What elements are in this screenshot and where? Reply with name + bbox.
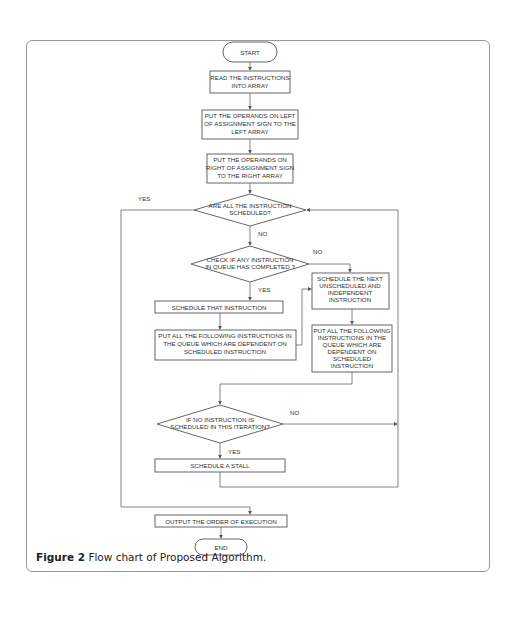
all-scheduled-decision: ARE ALL THE INSTRUCTION SCHEDULED? xyxy=(194,194,306,226)
right-operands-line-3: TO THE RIGHT ARRAY xyxy=(217,172,283,179)
schedule-next-line-2: UNSCHEDULED AND xyxy=(319,282,381,289)
figure-caption: Figure 2 Flow chart of Proposed Algorith… xyxy=(36,551,266,563)
no-label-any-completed: NO xyxy=(313,248,322,255)
output-order-box: OUTPUT THE ORDER OF EXECUTION xyxy=(155,515,287,527)
put-dependent-right-line-2: INSTRUCTIONS IN THE xyxy=(318,334,386,341)
read-instructions-box: READ THE INSTRUCTIONS INTO ARRAY xyxy=(210,71,290,93)
put-dependent-right-box: PUT ALL THE FOLLOWING INSTRUCTIONS IN TH… xyxy=(312,325,392,372)
no-label-no-instruction: NO xyxy=(290,409,299,416)
schedule-stall-box: SCHEDULE A STALL xyxy=(155,459,285,472)
output-order-label: OUTPUT THE ORDER OF EXECUTION xyxy=(165,518,277,525)
schedule-next-line-3: INDEPENDENT xyxy=(328,289,373,296)
put-dependent-right-line-3: QUEUE WHICH ARE xyxy=(323,341,382,348)
put-dependent-left-box: PUT ALL THE FOLLOWING INSTRUCTIONS IN TH… xyxy=(155,330,296,360)
left-operands-line-2: OF ASSIGNMENT SIGN TO THE xyxy=(204,120,296,127)
put-dependent-left-line-1: PUT ALL THE FOLLOWING INSTRUCTIONS IN xyxy=(158,332,291,339)
left-operands-line-1: PUT THE OPERANDS ON LEFT xyxy=(205,112,296,119)
flowchart: START READ THE INSTRUCTIONS INTO ARRAY P… xyxy=(0,0,517,627)
put-dependent-right-line-6: INSTRUCTION xyxy=(331,362,373,369)
no-label-all-scheduled: NO xyxy=(258,230,267,237)
put-dependent-left-line-2: THE QUEUE WHICH ARE DEPENDENT ON xyxy=(163,340,287,347)
any-completed-line-2: IN QUEUE HAS COMPLETED ? xyxy=(205,263,295,270)
any-completed-line-1: CHECK IF ANY INSTRUCTION xyxy=(207,256,294,263)
schedule-next-line-1: SCHEDULE THE NEXT xyxy=(317,275,383,282)
any-completed-decision: CHECK IF ANY INSTRUCTION IN QUEUE HAS CO… xyxy=(191,246,309,282)
left-operands-box: PUT THE OPERANDS ON LEFT OF ASSIGNMENT S… xyxy=(202,110,298,139)
start-terminal: START xyxy=(223,42,277,62)
end-label: END xyxy=(214,544,228,551)
read-line-2: INTO ARRAY xyxy=(232,82,269,89)
caption-text: Flow chart of Proposed Algorithm. xyxy=(88,551,266,563)
caption-label: Figure 2 xyxy=(36,551,85,563)
no-instruction-line-2: SCHEDULED IN THIS ITERATION? xyxy=(170,423,270,430)
put-dependent-right-line-1: PUT ALL THE FOLLOWING xyxy=(313,327,390,334)
right-operands-line-2: RIGHT OF ASSIGNMENT SIGN xyxy=(206,164,294,171)
start-label: START xyxy=(240,49,260,56)
no-instruction-line-1: IF NO INSTRUCTION IS xyxy=(186,416,254,423)
put-dependent-left-line-3: SCHEDULED INSTRUCTION xyxy=(184,348,266,355)
left-operands-line-3: LEFT ARRAY xyxy=(231,128,268,135)
read-line-1: READ THE INSTRUCTIONS xyxy=(210,74,289,81)
right-operands-line-1: PUT THE OPERANDS ON xyxy=(213,156,287,163)
all-scheduled-line-1: ARE ALL THE INSTRUCTION xyxy=(209,202,292,209)
yes-label-no-instruction: YES xyxy=(228,448,240,455)
schedule-that-label: SCHEDULE THAT INSTRUCTION xyxy=(172,304,267,311)
put-dependent-right-line-5: SCHEDULED xyxy=(333,355,372,362)
yes-label-all-scheduled: YES xyxy=(138,195,150,202)
schedule-that-box: SCHEDULE THAT INSTRUCTION xyxy=(155,301,283,313)
schedule-stall-label: SCHEDULE A STALL xyxy=(190,462,250,469)
yes-label-any-completed: YES xyxy=(258,286,270,293)
schedule-next-box: SCHEDULE THE NEXT UNSCHEDULED AND INDEPE… xyxy=(312,273,389,309)
no-instruction-decision: IF NO INSTRUCTION IS SCHEDULED IN THIS I… xyxy=(157,405,283,443)
put-dependent-right-line-4: DEPENDENT ON xyxy=(327,348,376,355)
right-operands-box: PUT THE OPERANDS ON RIGHT OF ASSIGNMENT … xyxy=(206,154,294,183)
schedule-next-line-4: INSTRUCTION xyxy=(329,296,371,303)
all-scheduled-line-2: SCHEDULED? xyxy=(229,209,271,216)
